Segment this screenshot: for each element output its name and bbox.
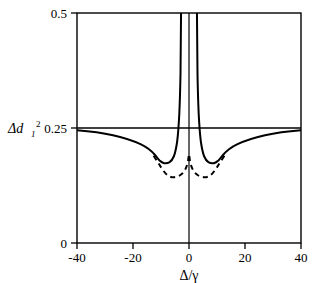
chart-background [0,0,315,283]
xtick-label-40: 40 [295,250,308,265]
ytick-label-top: 0.5 [51,6,67,21]
xtick-label-minus40: -40 [68,250,85,265]
xtick-label-0: 0 [186,250,193,265]
y-axis-title-main: Δd [7,121,24,136]
ytick-label-bottom: 0 [61,236,68,251]
xtick-label-20: 20 [239,250,252,265]
ytick-label-mid: 0.25 [44,121,67,136]
y-axis-title-subscript: 1 [31,129,36,139]
chart-figure: 0.5 0.25 0 -40 -20 0 20 40 Δ/γ Δd 1 2 [0,0,315,283]
y-axis-title-superscript: 2 [36,119,41,129]
chart-svg: 0.5 0.25 0 -40 -20 0 20 40 Δ/γ Δd 1 2 [0,0,315,283]
x-axis-title: Δ/γ [179,268,198,283]
xtick-label-minus20: -20 [124,250,141,265]
